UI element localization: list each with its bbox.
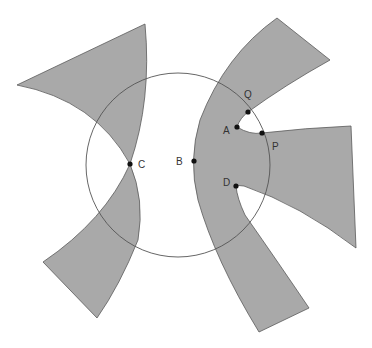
point-a-marker bbox=[234, 124, 239, 129]
point-p-marker bbox=[259, 130, 264, 135]
right-region bbox=[193, 18, 356, 332]
point-a-label: A bbox=[223, 125, 230, 136]
diagram-canvas: QAPBCD bbox=[0, 0, 372, 348]
point-b-marker bbox=[191, 158, 196, 163]
diagram-svg: QAPBCD bbox=[0, 0, 372, 348]
point-q-marker bbox=[245, 109, 250, 114]
upper-left-region bbox=[17, 24, 147, 164]
point-c-marker bbox=[127, 161, 132, 166]
point-d-label: D bbox=[223, 177, 230, 188]
point-q-label: Q bbox=[244, 89, 252, 100]
point-p-label: P bbox=[272, 141, 279, 152]
point-d-marker bbox=[233, 183, 238, 188]
point-c-label: C bbox=[138, 159, 145, 170]
point-b-label: B bbox=[176, 156, 183, 167]
